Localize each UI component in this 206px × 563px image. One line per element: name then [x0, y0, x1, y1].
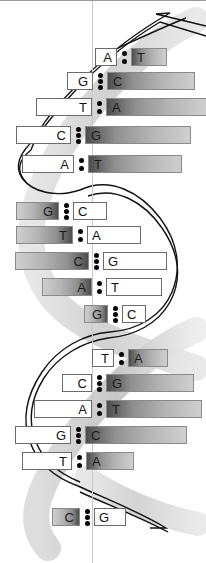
hydrogen-bond-dots [71, 126, 85, 144]
nucleotide-left: C [52, 508, 80, 526]
bond-dot [94, 259, 99, 264]
base-letter: A [77, 281, 86, 294]
hydrogen-bond-dots [117, 48, 131, 66]
bond-dot [79, 158, 84, 163]
bond-dot [77, 455, 82, 460]
nucleotide-left: G [16, 202, 59, 220]
bond-dot [76, 139, 81, 144]
hydrogen-bond-dots [108, 305, 122, 323]
hydrogen-bond-dots [114, 349, 128, 367]
hydrogen-bond-dots [92, 98, 106, 116]
bond-dot [113, 312, 118, 317]
hydrogen-bond-dots [71, 426, 85, 444]
base-pair-row: AT [22, 155, 182, 173]
bond-dot [97, 381, 102, 386]
nucleotide-right: T [106, 278, 162, 296]
base-letter: C [113, 75, 122, 88]
hydrogen-bond-dots [92, 374, 106, 392]
nucleotide-left: G [15, 426, 71, 444]
base-letter: T [94, 158, 102, 171]
bond-dot [76, 427, 81, 432]
base-letter: A [78, 403, 87, 416]
base-pair-row: CG [62, 374, 194, 392]
hydrogen-bond-dots [59, 202, 73, 220]
bond-dot [79, 166, 84, 171]
base-letter: A [134, 352, 143, 365]
nucleotide-left: G [84, 305, 108, 323]
nucleotide-right: C [85, 426, 187, 444]
base-letter: A [60, 158, 69, 171]
base-letter: T [137, 51, 145, 64]
bond-dot [97, 109, 102, 114]
nucleotide-left: G [67, 72, 93, 90]
nucleotide-left: C [62, 374, 92, 392]
hydrogen-bond-dots [92, 278, 106, 296]
nucleotide-right: G [106, 374, 194, 392]
base-pair-row: CG [52, 508, 126, 526]
base-letter: T [112, 403, 120, 416]
base-pair-row: GC [15, 426, 187, 444]
nucleotide-right: T [131, 48, 167, 66]
nucleotide-left: T [92, 349, 114, 367]
base-letter: G [92, 308, 102, 321]
base-letter: A [92, 229, 101, 242]
bond-dot [113, 306, 118, 311]
nucleotide-left: C [15, 252, 89, 270]
base-pair-row: TA [22, 452, 134, 470]
base-letter: T [79, 101, 87, 114]
bond-dot [97, 101, 102, 106]
bond-dot [64, 203, 69, 208]
hydrogen-bond-dots [80, 508, 94, 526]
bond-dot [77, 463, 82, 468]
bond-dot [85, 509, 90, 514]
bond-dot [122, 51, 127, 56]
base-pair-row: GC [84, 305, 146, 323]
hydrogen-bond-dots [89, 252, 103, 270]
nucleotide-right: C [73, 202, 107, 220]
base-letter: A [112, 101, 121, 114]
base-letter: T [59, 455, 67, 468]
bond-dot [97, 411, 102, 416]
nucleotide-left: A [34, 400, 92, 418]
bond-dot [97, 375, 102, 380]
nucleotide-right: G [85, 126, 191, 144]
dna-double-helix-figure: ATGCTACGATGCTACGATGCTACGATGCTACG [0, 0, 206, 563]
bond-dot [78, 229, 83, 234]
base-pair-row: CG [15, 252, 167, 270]
base-letter: G [43, 205, 53, 218]
bond-dot [113, 318, 118, 323]
bond-dot [97, 281, 102, 286]
nucleotide-left: A [95, 48, 117, 66]
nucleotide-right: C [107, 72, 195, 90]
base-pair-row: GC [16, 202, 107, 220]
bond-dot [64, 209, 69, 214]
nucleotide-right: T [88, 155, 182, 173]
nucleotide-left: T [22, 452, 72, 470]
base-letter: G [91, 129, 101, 142]
base-letter: C [65, 511, 74, 524]
base-letter: C [57, 129, 66, 142]
nucleotide-right: C [122, 305, 146, 323]
bond-dot [94, 253, 99, 258]
bond-dot [64, 215, 69, 220]
nucleotide-right: G [103, 252, 167, 270]
nucleotide-right: A [86, 452, 134, 470]
bond-dot [78, 237, 83, 242]
nucleotide-right: T [106, 400, 202, 418]
bond-dot [76, 127, 81, 132]
base-letter: C [127, 308, 136, 321]
hydrogen-bond-dots [73, 226, 87, 244]
base-letter: G [78, 75, 88, 88]
bond-dot [97, 403, 102, 408]
base-letter: G [56, 429, 66, 442]
nucleotide-right: G [94, 508, 126, 526]
bond-dot [76, 439, 81, 444]
base-pair-row: GC [67, 72, 195, 90]
bond-dot [76, 433, 81, 438]
base-pair-row: TA [92, 349, 168, 367]
base-letter: T [59, 229, 67, 242]
base-pair-row: CG [16, 126, 191, 144]
base-pair-row: AT [95, 48, 167, 66]
bond-dot [98, 79, 103, 84]
base-letter: T [111, 281, 119, 294]
